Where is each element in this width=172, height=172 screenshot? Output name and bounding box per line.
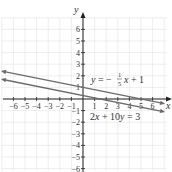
x-tick-label: 4	[127, 102, 131, 111]
x-tick-label: −2	[56, 102, 65, 111]
y-tick-label: 1	[76, 83, 80, 92]
y-tick-label: −6	[71, 165, 80, 172]
equation-label-2: 2x + 10y = 3	[90, 111, 140, 122]
x-tick-label: −4	[32, 102, 41, 111]
y-tick-label: 6	[76, 25, 80, 34]
svg-text:1: 1	[118, 71, 121, 78]
y-tick-label: 3	[76, 60, 80, 69]
y-tick-label: 4	[76, 49, 80, 58]
x-tick-label: −5	[21, 102, 30, 111]
x-axis-label: x	[165, 100, 171, 111]
x-tick-label: −6	[9, 102, 18, 111]
y-axis-arrow-icon	[81, 12, 86, 18]
y-axis-label: y	[73, 4, 79, 15]
y-tick-label: −5	[71, 153, 80, 162]
y-tick-label: 5	[76, 37, 80, 46]
svg-text:y = −: y = −	[90, 74, 112, 85]
y-tick-label: −3	[71, 130, 80, 139]
svg-text:5: 5	[118, 80, 121, 87]
x-tick-label: 1	[93, 102, 97, 111]
x-tick-label: 2	[104, 102, 108, 111]
svg-text:x + 1: x + 1	[123, 74, 144, 85]
y-tick-label: −4	[71, 141, 80, 150]
y-tick-label: 2	[76, 72, 80, 81]
equation-label-1: y = − 1 5 x + 1	[90, 71, 144, 87]
coordinate-plane: −6−5−4−3−2−1123456654321−1−2−3−4−5−6 y x…	[0, 0, 172, 172]
y-tick-label: −2	[71, 118, 80, 127]
axes	[3, 12, 172, 172]
y-tick-label: −1	[71, 107, 80, 116]
x-tick-label: −3	[44, 102, 53, 111]
